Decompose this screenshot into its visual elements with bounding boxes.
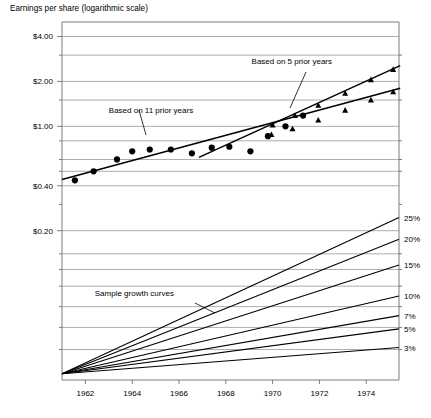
growth-rate-label: 7% [404,312,416,321]
annotation-label: Sample growth curves [95,289,174,298]
growth-rate-label: 25% [404,214,420,223]
x-tick-label: 1970 [264,389,282,398]
data-point-circle [209,145,215,151]
y-tick-label: $2.00 [33,77,54,86]
gridlines [62,36,399,349]
annotation-leader-line [290,72,306,108]
data-point-triangle [315,117,321,123]
data-point-circle [168,146,174,152]
y-tick-label: $0.40 [33,182,54,191]
x-tick-label: 1962 [77,389,95,398]
growth-curve [62,265,399,374]
growth-rate-labels: 25%20%15%10%7%5%3% [404,214,420,353]
data-point-circle [72,177,78,183]
data-point-circle [247,148,253,154]
chart-annotations: Based on 5 prior yearsBased on 11 prior … [95,57,332,313]
data-point-circle [300,113,306,119]
growth-rate-label: 15% [404,261,420,270]
data-point-circle [129,148,135,154]
x-axis-labels: 1962196419661968197019721974 [77,389,376,398]
data-point-circle [282,123,288,129]
data-point-circle [147,146,153,152]
data-point-circle [226,144,232,150]
earnings-per-share-chart: Earnings per share (logarithmic scale) $… [0,0,431,418]
data-point-circle [90,168,96,174]
chart-title: Earnings per share (logarithmic scale) [10,4,148,13]
annotation-label: Based on 11 prior years [109,106,193,115]
trend-lines [62,66,400,180]
y-axis-ticks [57,36,402,349]
chart-container: Earnings per share (logarithmic scale) $… [0,0,431,418]
data-point-triangle [315,102,321,108]
y-tick-label: $0.20 [33,227,54,236]
data-point-triangle [368,97,374,103]
data-point-triangle [342,107,348,113]
x-tick-label: 1964 [123,389,141,398]
growth-rate-label: 20% [404,235,420,244]
growth-curve [62,296,399,374]
x-tick-label: 1972 [311,389,329,398]
growth-rate-label: 10% [404,292,420,301]
data-point-circle [114,156,120,162]
growth-rate-label: 5% [404,325,416,334]
data-point-circle [189,150,195,156]
data-point-markers [72,66,396,183]
y-axis-labels: $4.00$2.00$1.00$0.40$0.20 [33,32,54,235]
growth-rate-label: 3% [404,344,416,353]
trend-line [62,88,400,179]
y-tick-label: $1.00 [33,122,54,131]
x-tick-label: 1974 [357,389,375,398]
x-axis-ticks [85,380,366,384]
y-tick-label: $4.00 [33,32,54,41]
x-tick-label: 1968 [217,389,235,398]
growth-curve [62,316,399,374]
plot-frame [62,22,399,380]
x-tick-label: 1966 [170,389,188,398]
annotation-label: Based on 5 prior years [252,57,333,66]
